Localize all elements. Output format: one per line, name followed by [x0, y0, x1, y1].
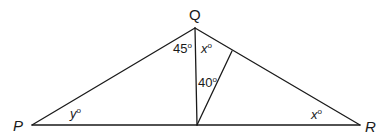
- angle-label-qrp: xo: [310, 107, 323, 122]
- segment-qd: [195, 28, 197, 125]
- vertex-label-p: P: [13, 117, 23, 134]
- angle-label-dqe: xo: [200, 41, 213, 56]
- angle-label-pqd: 45o: [173, 41, 192, 56]
- angle-label-qpr: yo: [69, 106, 82, 121]
- triangle-diagram: Q P R 45o xo 40o yo xo: [0, 0, 386, 139]
- side-pq: [32, 28, 195, 125]
- vertex-label-r: R: [365, 118, 376, 135]
- vertex-label-q: Q: [189, 6, 201, 23]
